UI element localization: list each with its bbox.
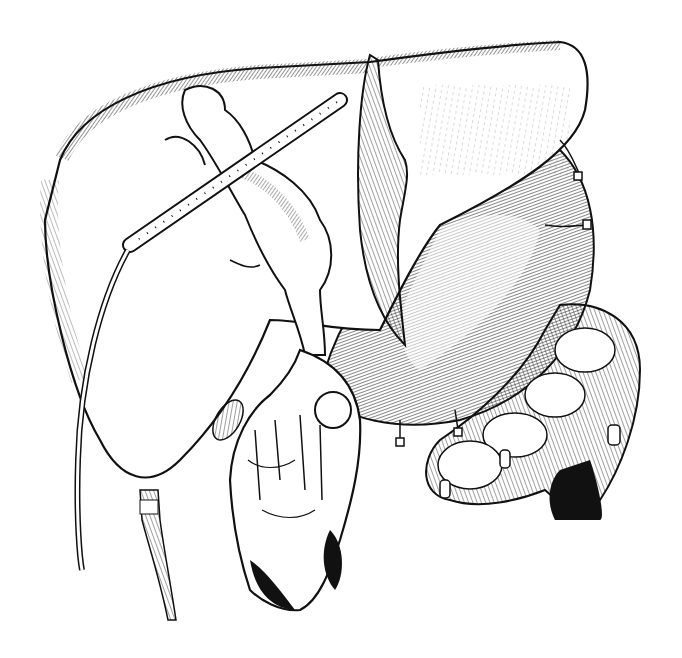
illustration-svg xyxy=(0,0,682,658)
gallbladder-tube xyxy=(140,490,176,620)
medical-illustration xyxy=(0,0,682,658)
